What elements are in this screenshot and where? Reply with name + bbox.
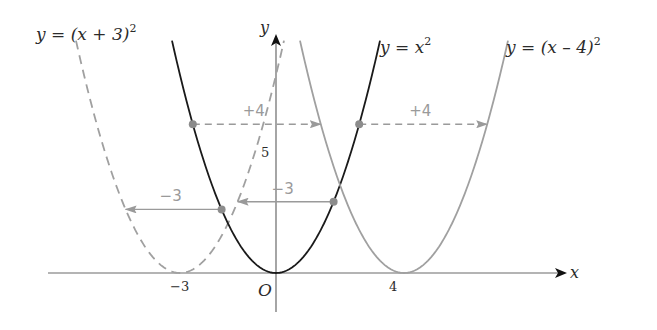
- label-x-minus-4-squared: y = (x – 4)2: [505, 35, 601, 57]
- origin-label: O: [258, 280, 272, 300]
- x-axis-label: x: [570, 263, 579, 282]
- y-axis-label: y: [259, 18, 270, 37]
- shift-arrow-minus3-right: −3: [238, 180, 338, 206]
- x-tick-label-neg3: −3: [170, 279, 189, 294]
- y-tick-label-5: 5: [261, 145, 269, 160]
- curve-x-minus-4-squared: [300, 41, 508, 273]
- shift-label: −3: [272, 180, 294, 198]
- shift-arrow-minus3-left: −3: [126, 187, 226, 213]
- shift-label: +4: [409, 102, 431, 120]
- parabola-translation-chart: x y O −3 4 5 +4 +4 −3 −3: [0, 0, 657, 330]
- label-x-squared: y = x2: [379, 35, 431, 57]
- shift-annotations: +4 +4 −3 −3: [126, 102, 488, 213]
- curves: [76, 41, 508, 273]
- curve-labels: y = (x + 3)2 y = x2 y = (x – 4)2: [35, 22, 601, 57]
- shift-arrow-plus4-right: +4: [355, 102, 487, 128]
- shift-arrow-plus4-left: +4: [189, 102, 321, 128]
- axes: x y O −3 4 5: [48, 18, 579, 312]
- x-tick-label-4: 4: [389, 279, 397, 294]
- shift-label: +4: [243, 102, 265, 120]
- shift-label: −3: [160, 187, 182, 205]
- label-x-plus-3-squared: y = (x + 3)2: [35, 22, 136, 44]
